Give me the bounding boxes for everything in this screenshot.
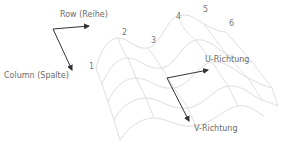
v-direction-arrow	[167, 78, 189, 121]
row-column-arrows	[53, 26, 89, 70]
point-number-4: 4	[176, 13, 181, 21]
mesh-row-3	[108, 62, 272, 102]
column-arrow	[53, 29, 72, 70]
mesh-col-1	[96, 68, 120, 140]
mesh-col-2	[118, 38, 154, 118]
column-label: Column (Spalte)	[4, 72, 69, 80]
point-number-6: 6	[229, 20, 234, 28]
v-direction-label: V-Richtung	[194, 125, 238, 133]
u-direction-arrow	[167, 70, 208, 78]
mesh-row-4	[114, 86, 278, 120]
u-direction-label: U-Richtung	[205, 56, 249, 64]
mesh-row-5	[120, 106, 264, 140]
point-number-5: 5	[203, 6, 208, 14]
row-arrow	[53, 26, 89, 29]
uv-arrows	[167, 70, 208, 121]
point-number-1: 1	[89, 63, 94, 71]
point-number-2: 2	[122, 29, 127, 37]
row-label: Row (Reihe)	[60, 11, 108, 19]
point-number-3: 3	[151, 37, 156, 45]
